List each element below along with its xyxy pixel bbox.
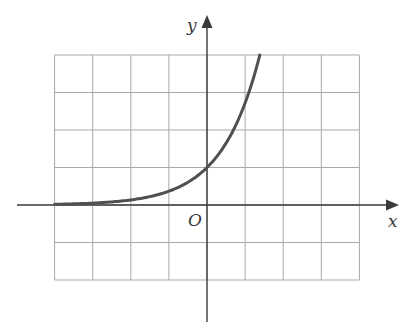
exponential-graph: y x O [0, 0, 412, 333]
origin-label: O [188, 210, 202, 230]
x-axis-label: x [388, 211, 398, 231]
x-axis-arrow-icon [386, 200, 399, 211]
y-axis-arrow-icon [202, 15, 213, 28]
y-axis-label: y [186, 15, 197, 35]
